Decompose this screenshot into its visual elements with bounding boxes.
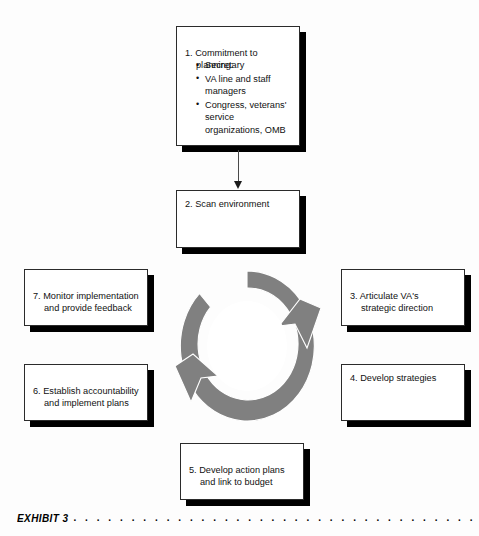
- process-box-step-5: 5. Develop action plans and link to budg…: [180, 443, 304, 500]
- process-box-step-3: 3. Articulate VA's strategic direction: [341, 269, 465, 326]
- step-3-heading: 3. Articulate VA's strategic direction: [341, 269, 465, 327]
- list-item: Congress, veterans' service organization…: [205, 99, 292, 137]
- step-4-label: 4. Develop strategies: [341, 364, 465, 385]
- step-6-heading: 6. Establish accountability and implemen…: [24, 364, 148, 422]
- circular-cycle-arrows: [171, 262, 323, 430]
- caption-leader-dots: . . . . . . . . . . . . . . . . . . . . …: [73, 513, 475, 523]
- process-box-step-7: 7. Monitor implementation and provide fe…: [24, 269, 148, 326]
- step-7-heading-line-2: and provide feedback: [33, 302, 139, 315]
- step-6-heading-line-2: and implement plans: [33, 397, 139, 410]
- step-5-heading-line-1: 5. Develop action plans: [189, 465, 285, 475]
- cycle-arrows-svg: [171, 262, 323, 430]
- clipped-header-text: [30, 0, 330, 3]
- step-7-heading-line-1: 7. Monitor implementation: [33, 291, 139, 301]
- step-6-heading-line-1: 6. Establish accountability: [33, 386, 139, 396]
- process-box-step-1: 1. Commitment to planning: Secretary VA …: [176, 26, 300, 146]
- step-3-heading-line-2: strategic direction: [350, 302, 456, 315]
- step-7-heading: 7. Monitor implementation and provide fe…: [24, 269, 148, 327]
- exhibit-label: EXHIBIT 3: [17, 513, 68, 524]
- process-box-step-4: 4. Develop strategies: [341, 364, 465, 421]
- process-box-step-2: 2. Scan environment: [176, 190, 300, 248]
- cycle-ring-shape: [175, 271, 321, 421]
- connector-stem: [238, 150, 239, 183]
- list-item: VA line and staff managers: [205, 73, 292, 98]
- step-5-heading-line-2: and link to budget: [189, 476, 295, 489]
- step-1-bullet-list: Secretary VA line and staff managers Con…: [176, 26, 300, 138]
- cycle-inner-hole: [207, 301, 287, 391]
- list-item: Secretary: [205, 59, 292, 72]
- diagram-page: 1. Commitment to planning: Secretary VA …: [0, 0, 479, 536]
- step-3-heading-line-1: 3. Articulate VA's: [350, 291, 418, 301]
- arrow-step1-to-step2: [238, 150, 247, 190]
- exhibit-caption: EXHIBIT 3 . . . . . . . . . . . . . . . …: [17, 513, 475, 527]
- step-2-label: 2. Scan environment: [176, 190, 300, 211]
- process-box-step-6: 6. Establish accountability and implemen…: [24, 364, 148, 421]
- arrowhead-icon: [234, 181, 242, 189]
- step-5-heading: 5. Develop action plans and link to budg…: [180, 443, 304, 501]
